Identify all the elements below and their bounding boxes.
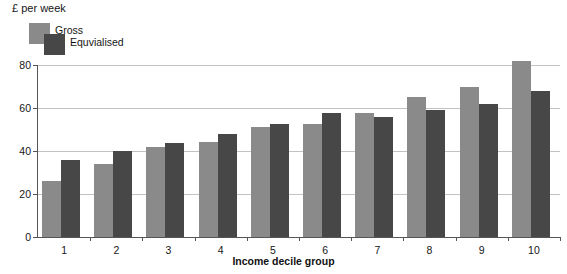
bar-gross (94, 164, 113, 237)
x-tick-mark (508, 237, 509, 241)
bar-equivalised (374, 117, 393, 237)
bar-equivalised (322, 113, 341, 237)
bar-gross (251, 127, 270, 237)
bar-gross (199, 142, 218, 237)
bar-gross (303, 124, 322, 237)
bar-group (90, 65, 142, 237)
bar-gross (407, 97, 426, 237)
x-tick-mark (90, 237, 91, 241)
y-tick-label-wrap: 80 (3, 60, 31, 71)
bar-equivalised (113, 151, 132, 237)
y-tick-label: 20 (19, 189, 31, 200)
y-tick-mark (33, 151, 37, 152)
bar-equivalised (426, 110, 445, 237)
y-tick-label-wrap: 40 (3, 146, 31, 157)
y-axis-unit-caption: £ per week (12, 1, 66, 15)
y-tick-label: 80 (19, 60, 31, 71)
y-tick-mark (33, 237, 37, 238)
plot-area: 020406080 12345678910 (37, 65, 560, 237)
bar-gross (146, 147, 165, 237)
y-tick-label: 0 (25, 232, 31, 243)
bar-group (351, 65, 403, 237)
bar-group (195, 65, 247, 237)
bar-equivalised (270, 124, 289, 237)
bar-equivalised (218, 134, 237, 237)
chart-legend: Gross Equvialised (29, 23, 209, 53)
bar-equivalised (165, 143, 184, 237)
bars-layer (38, 65, 560, 237)
bar-chart: £ per week Gross Equvialised 020406080 1… (0, 0, 567, 274)
bar-group (299, 65, 351, 237)
y-tick-label-wrap: 0 (3, 232, 31, 243)
bar-group (403, 65, 455, 237)
bar-equivalised (531, 91, 550, 237)
y-tick-label-wrap: 60 (3, 103, 31, 114)
x-tick-mark (456, 237, 457, 241)
x-tick-mark (195, 237, 196, 241)
bar-equivalised (479, 104, 498, 237)
x-tick-mark (351, 237, 352, 241)
y-tick-label: 60 (19, 103, 31, 114)
y-tick-mark (33, 194, 37, 195)
x-tick-mark (247, 237, 248, 241)
bar-equivalised (61, 160, 80, 237)
bar-group (456, 65, 508, 237)
legend-label-equivalised: Equvialised (70, 36, 124, 48)
y-tick-label-wrap: 20 (3, 189, 31, 200)
x-tick-mark (560, 237, 561, 241)
legend-swatch-equivalised (44, 34, 65, 55)
bar-group (247, 65, 299, 237)
x-tick-mark (142, 237, 143, 241)
bar-gross (512, 61, 531, 237)
bar-gross (355, 113, 374, 237)
bar-gross (42, 181, 61, 237)
y-tick-mark (33, 108, 37, 109)
legend-label-gross: Gross (55, 24, 83, 36)
x-tick-mark (299, 237, 300, 241)
bar-group (142, 65, 194, 237)
bar-group (38, 65, 90, 237)
bar-group (508, 65, 560, 237)
bar-gross (460, 87, 479, 238)
y-tick-label: 40 (19, 146, 31, 157)
y-tick-mark (33, 65, 37, 66)
x-tick-mark (403, 237, 404, 241)
x-axis-title: Income decile group (0, 255, 567, 268)
